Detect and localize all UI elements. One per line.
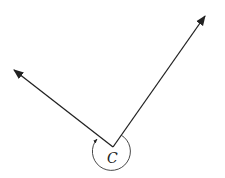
left-ray bbox=[14, 70, 113, 147]
right-ray bbox=[113, 16, 205, 147]
angle-diagram: C bbox=[0, 0, 225, 178]
angle-label: C bbox=[107, 150, 118, 166]
